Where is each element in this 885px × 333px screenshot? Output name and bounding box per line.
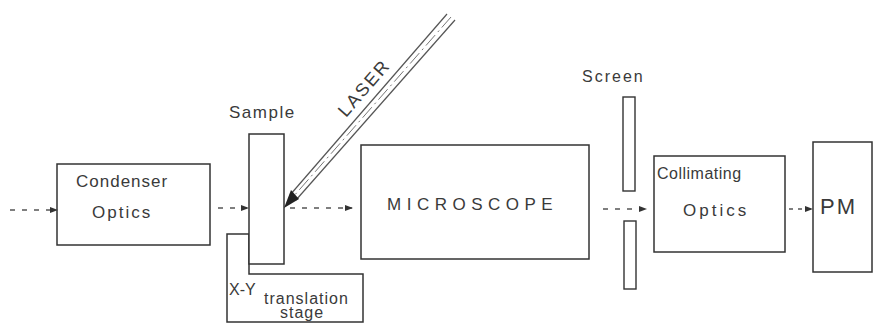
laser-label: LASER [334, 55, 394, 120]
optical-setup-diagram: LASER [0, 0, 885, 333]
laser-arrowhead [284, 190, 299, 208]
stage-label-xy: X-Y [229, 282, 256, 298]
screen-lower-plate [624, 221, 636, 289]
collimating-label-line1: Collimating [657, 166, 742, 182]
microscope-label: MICROSCOPE [387, 196, 558, 213]
screen-label: Screen [582, 69, 645, 85]
sample-holder [249, 134, 284, 264]
collimating-label-line2: Optics [683, 202, 749, 219]
screen-upper-plate [623, 97, 635, 191]
sample-label: Sample [229, 104, 296, 121]
pm-label: PM [820, 196, 857, 218]
stage-label-stage: stage [280, 305, 324, 321]
condenser-label-line1: Condenser [76, 173, 168, 190]
laser-beam [284, 14, 455, 208]
condenser-label-line2: Optics [92, 204, 152, 221]
